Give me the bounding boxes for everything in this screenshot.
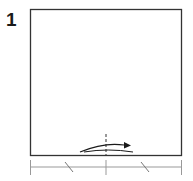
- paper-square: [31, 10, 182, 156]
- measurement-ruler: [30, 160, 182, 175]
- origami-diagram: [0, 0, 193, 181]
